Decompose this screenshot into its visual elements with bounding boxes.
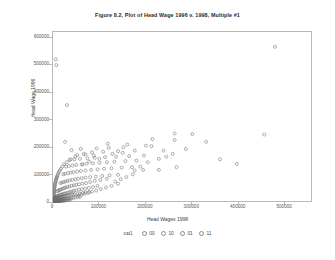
scatter-point xyxy=(105,161,108,164)
figure-container: Figure 8.2, Plot of Head Wage 1996 v. 19… xyxy=(0,0,335,260)
scatter-point xyxy=(81,182,84,185)
scatter-point xyxy=(133,169,136,172)
scatter-point xyxy=(96,184,99,187)
scatter-point xyxy=(71,190,74,193)
scatter-point xyxy=(85,162,88,165)
legend-marker-circle-icon xyxy=(161,231,166,236)
scatter-point xyxy=(131,173,134,176)
scatter-point xyxy=(110,184,113,187)
legend-entry-label: 01 xyxy=(187,231,192,236)
scatter-point xyxy=(76,170,79,173)
scatter-point xyxy=(104,186,107,189)
y-axis-tick-label: 400000 xyxy=(9,89,49,94)
scatter-point xyxy=(184,147,187,150)
scatter-point xyxy=(64,140,67,143)
scatter-point xyxy=(143,154,146,157)
scatter-point xyxy=(54,58,57,61)
scatter-point xyxy=(105,177,108,180)
scatter-point xyxy=(126,143,129,146)
y-axis-label: Head Wage 1996 xyxy=(30,53,36,143)
scatter-point xyxy=(64,172,67,175)
legend-marker-circle-icon xyxy=(180,231,185,236)
scatter-point xyxy=(157,157,160,160)
scatter-point xyxy=(114,180,117,183)
scatter-point xyxy=(173,132,176,135)
scatter-point xyxy=(151,138,154,141)
scatter-point xyxy=(62,173,65,176)
scatter-point xyxy=(235,162,238,165)
y-axis-tick-label: 500000 xyxy=(9,61,49,66)
scatter-point xyxy=(93,179,96,182)
scatter-point xyxy=(88,160,91,163)
legend-entry[interactable]: 11 xyxy=(199,231,212,236)
y-axis-tick-label: 100000 xyxy=(9,172,49,177)
legend-entry-label: 11 xyxy=(206,231,211,236)
scatter-point xyxy=(117,150,120,153)
legend-entry[interactable]: 10 xyxy=(161,231,174,236)
scatter-point xyxy=(162,149,165,152)
scatter-point xyxy=(173,139,176,142)
scatter-point xyxy=(124,160,127,163)
legend-title: cat1 xyxy=(124,231,133,236)
scatter-point xyxy=(75,163,78,166)
scatter-point xyxy=(165,155,168,158)
scatter-point xyxy=(102,150,105,153)
scatter-point xyxy=(84,187,87,190)
scatter-point xyxy=(117,173,120,176)
scatter-point xyxy=(98,161,101,164)
legend-entry[interactable]: 00 xyxy=(142,231,155,236)
scatter-point xyxy=(150,145,153,148)
legend-entry[interactable]: 01 xyxy=(180,231,193,236)
scatter-points-layer xyxy=(53,32,313,203)
scatter-point xyxy=(263,133,266,136)
scatter-point xyxy=(115,155,118,158)
scatter-point xyxy=(95,189,98,192)
scatter-point xyxy=(94,175,97,178)
scatter-point xyxy=(104,156,107,159)
scatter-point xyxy=(74,178,77,181)
legend-entry-label: 00 xyxy=(149,231,154,236)
scatter-point xyxy=(157,168,160,171)
legend-marker-circle-icon xyxy=(199,231,204,236)
scatter-point xyxy=(89,176,92,179)
plot-area xyxy=(52,31,312,202)
scatter-point xyxy=(108,174,111,177)
scatter-point xyxy=(146,161,149,164)
scatter-point xyxy=(76,154,79,157)
scatter-point xyxy=(78,188,81,191)
scatter-point xyxy=(79,170,82,173)
x-axis-label: Head Wages 1998 xyxy=(0,216,335,222)
scatter-point xyxy=(82,152,85,155)
scatter-point xyxy=(103,167,106,170)
scatter-point xyxy=(79,147,82,150)
scatter-point xyxy=(84,176,87,179)
scatter-point xyxy=(55,64,58,67)
scatter-point xyxy=(62,181,65,184)
scatter-point xyxy=(87,186,90,189)
scatter-point xyxy=(111,152,114,155)
scatter-point xyxy=(191,133,194,136)
scatter-point xyxy=(84,182,87,185)
legend-entry-label: 10 xyxy=(168,231,173,236)
scatter-point xyxy=(84,153,87,156)
scatter-point xyxy=(66,186,69,189)
scatter-point xyxy=(205,140,208,143)
scatter-point xyxy=(74,155,77,158)
y-axis-tick-label: 300000 xyxy=(9,117,49,122)
scatter-point xyxy=(219,158,222,161)
scatter-point xyxy=(135,159,138,162)
scatter-point xyxy=(113,160,116,163)
scatter-point xyxy=(171,152,174,155)
scatter-point xyxy=(71,164,74,167)
scatter-point xyxy=(89,181,92,184)
scatter-point xyxy=(69,158,72,161)
legend-marker-circle-icon xyxy=(142,231,147,236)
scatter-point xyxy=(120,166,123,169)
scatter-point xyxy=(67,165,70,168)
y-axis-tick-label: 600000 xyxy=(9,34,49,39)
scatter-point xyxy=(107,146,110,149)
scatter-point xyxy=(106,142,109,145)
scatter-point xyxy=(119,178,122,181)
scatter-point xyxy=(78,183,81,186)
scatter-point xyxy=(80,188,83,191)
